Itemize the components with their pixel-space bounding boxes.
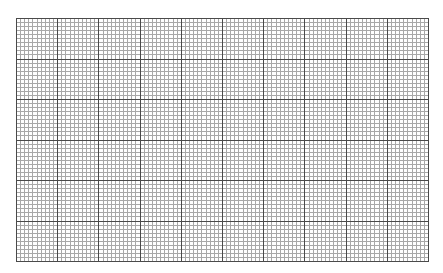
graph-paper-grid — [16, 18, 429, 262]
clipped-header-text — [14, 0, 184, 3]
grid-lines — [16, 18, 429, 262]
